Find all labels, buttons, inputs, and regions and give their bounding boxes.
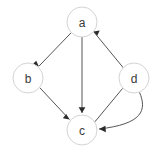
node-b-label: b: [25, 72, 32, 86]
node-d-label: d: [131, 72, 138, 86]
node-b[interactable]: b: [13, 63, 43, 93]
node-c-label: c: [79, 124, 85, 138]
node-a[interactable]: a: [67, 7, 97, 37]
directed-graph-figure: a b c d: [0, 0, 156, 154]
node-c[interactable]: c: [67, 115, 97, 145]
node-d[interactable]: d: [119, 63, 149, 93]
node-a-label: a: [79, 16, 86, 30]
